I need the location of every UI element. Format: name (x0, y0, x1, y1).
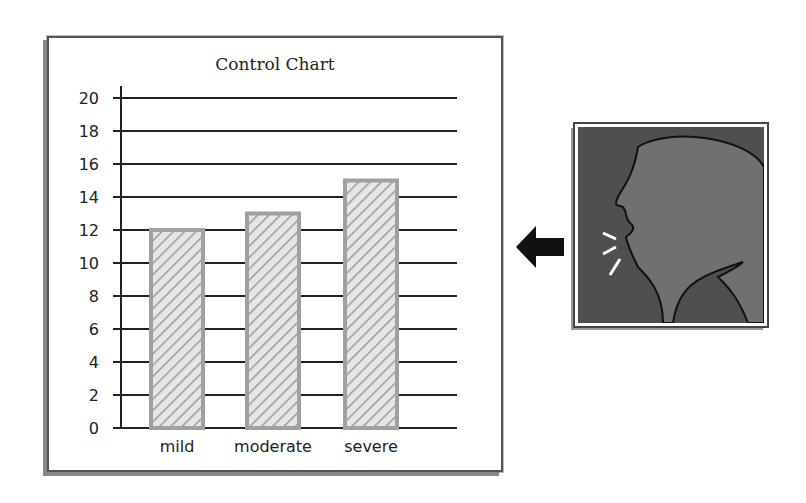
x-category-label: mild (160, 437, 195, 456)
y-tick-label: 0 (89, 419, 99, 438)
y-tick-label: 16 (79, 155, 99, 174)
y-tick-label: 14 (79, 188, 99, 207)
x-category-label: severe (344, 437, 398, 456)
y-tick-label: 20 (79, 89, 99, 108)
bar-severe (345, 181, 397, 429)
y-tick-label: 10 (79, 254, 99, 273)
y-tick-label: 4 (89, 353, 99, 372)
left-arrow-icon (516, 222, 566, 272)
bar-chart: 02468101214161820 mildmoderatesevere (49, 38, 501, 470)
x-category-label: moderate (234, 437, 312, 456)
y-tick-label: 18 (79, 122, 99, 141)
bar-moderate (247, 214, 299, 429)
y-tick-label: 2 (89, 386, 99, 405)
y-tick-label: 12 (79, 221, 99, 240)
bar-mild (151, 230, 203, 428)
y-tick-label: 6 (89, 320, 99, 339)
chart-frame: Control Chart 02468101214161820 mildmode… (47, 36, 503, 472)
y-tick-label: 8 (89, 287, 99, 306)
coughing-person-illustration (575, 124, 767, 326)
